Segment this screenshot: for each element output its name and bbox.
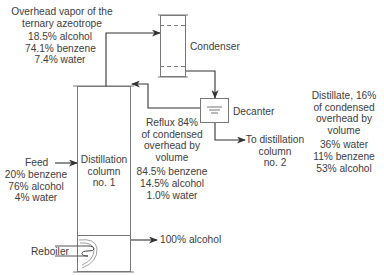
condensate-line [186, 71, 215, 98]
feed-benzene: 20% benzene [2, 169, 70, 181]
distillate-water: 36% water [304, 139, 384, 151]
distillate-line-2: of condensed [304, 102, 384, 114]
reflux-line-1: Reflux 84% [133, 117, 211, 129]
feed-water: 4% water [2, 192, 70, 204]
reboiler-label: Reboiler [31, 246, 69, 258]
overhead-benzene: 74.1% benzene [25, 43, 95, 55]
to-column-2-label: To distillation column no. 2 [240, 134, 310, 169]
distillate-label: Distillate, 16% of condensed overhead by… [304, 90, 384, 174]
feed-label: Feed [25, 157, 48, 169]
column-label: Distillation column no. 1 [77, 154, 131, 189]
distillate-line-1: Distillate, 16% [304, 90, 384, 102]
to-column-2-line-3: no. 2 [240, 157, 310, 169]
reflux-line-3: overhead by [133, 140, 211, 152]
to-column-2-line-1: To distillation [240, 134, 310, 146]
distillate-line-3: overhead by [304, 113, 384, 125]
column-line-2: column [77, 166, 131, 178]
bottoms-label: 100% alcohol [160, 234, 221, 246]
condenser-label: Condenser [190, 41, 240, 53]
feed-composition: 20% benzene 76% alcohol 4% water [2, 169, 70, 204]
to-column-2-line-2: column [240, 146, 310, 158]
overhead-vapor-title-2: ternary azeotrope [8, 18, 116, 30]
reflux-line-4: volume [133, 152, 211, 164]
decanter-label: Decanter [233, 106, 274, 118]
condenser-vessel [158, 15, 188, 77]
distillate-line-4: volume [304, 125, 384, 137]
reflux-benzene: 84.5% benzene [133, 166, 211, 178]
distillate-alcohol: 53% alcohol [304, 163, 384, 175]
column-line-1: Distillation [77, 154, 131, 166]
distillate-benzene: 11% benzene [304, 151, 384, 163]
column-line-3: no. 1 [77, 177, 131, 189]
overhead-water: 7.4% water [25, 54, 95, 66]
overhead-vapor-line [106, 33, 160, 86]
overhead-vapor-label: Overhead vapor of the ternary azeotrope [8, 6, 116, 29]
reflux-alcohol: 14.5% alcohol [133, 178, 211, 190]
reflux-line [132, 84, 200, 108]
reflux-label: Reflux 84% of condensed overhead by volu… [133, 117, 211, 201]
feed-alcohol: 76% alcohol [2, 181, 70, 193]
reflux-line-2: of condensed [133, 129, 211, 141]
overhead-vapor-composition: 18.5% alcohol 74.1% benzene 7.4% water [25, 31, 95, 66]
reflux-water: 1.0% water [133, 190, 211, 202]
overhead-vapor-title-1: Overhead vapor of the [8, 6, 116, 18]
overhead-alcohol: 18.5% alcohol [25, 31, 95, 43]
